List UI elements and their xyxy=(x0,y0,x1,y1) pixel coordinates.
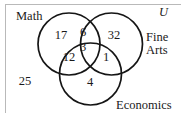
region-count-math-only: 17 xyxy=(52,29,70,42)
region-count-fine-arts-economics: 1 xyxy=(99,51,113,64)
region-count-math-fine-arts: 6 xyxy=(76,26,90,39)
region-count-economics-only: 4 xyxy=(81,76,99,89)
circle-math xyxy=(38,13,100,75)
set-label-fine-arts-line2: Arts xyxy=(146,44,168,57)
set-label-fine-arts-line1: Fine xyxy=(146,31,168,44)
region-count-fine-arts-only: 32 xyxy=(105,29,123,42)
venn-diagram-figure: Math Fine Arts Economics U 17 32 4 6 12 … xyxy=(0,0,181,113)
universal-set-label: U xyxy=(159,6,168,19)
set-label-fine-arts: Fine Arts xyxy=(146,31,168,57)
set-label-math: Math xyxy=(16,10,42,23)
region-count-outside-all: 25 xyxy=(16,75,34,88)
region-count-all-three: 3 xyxy=(76,41,90,54)
set-label-economics: Economics xyxy=(116,99,172,112)
